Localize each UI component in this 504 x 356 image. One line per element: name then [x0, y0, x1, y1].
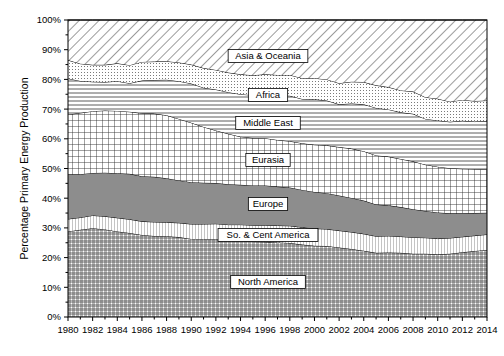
- x-tick-label: 1994: [230, 324, 251, 335]
- x-tick-label: 2012: [452, 324, 473, 335]
- x-tick-label: 2006: [378, 324, 399, 335]
- y-tick-label: 60%: [42, 133, 62, 144]
- series-label-middle-east: Middle East: [243, 117, 293, 128]
- series-label-so-cent-america: So. & Cent America: [227, 229, 311, 240]
- y-tick-label: 0%: [47, 311, 61, 322]
- y-axis-title-text: Percentage Primary Energy Production: [18, 77, 30, 259]
- y-tick-label: 90%: [42, 44, 62, 55]
- x-tick-label: 2014: [476, 324, 497, 335]
- y-tick-label: 10%: [42, 282, 62, 293]
- stacked-area-chart: 0%10%20%30%40%50%60%70%80%90%100% 198019…: [0, 0, 504, 356]
- series-label-asia-oceania: Asia & Oceania: [235, 50, 301, 61]
- x-tick-label: 2002: [329, 324, 350, 335]
- area-series-group: [68, 20, 487, 317]
- chart-container: 0%10%20%30%40%50%60%70%80%90%100% 198019…: [0, 0, 504, 356]
- series-label-europe: Europe: [253, 198, 284, 209]
- y-tick-label: 30%: [42, 222, 62, 233]
- x-tick-label: 1984: [107, 324, 128, 335]
- x-tick-label: 1980: [57, 324, 78, 335]
- y-tick-label: 20%: [42, 252, 62, 263]
- x-tick-label: 1988: [156, 324, 177, 335]
- y-axis-title: Percentage Primary Energy Production: [18, 77, 30, 259]
- x-axis-ticks: 1980198219841986198819901992199419961998…: [57, 317, 497, 335]
- y-tick-label: 80%: [42, 74, 62, 85]
- x-tick-label: 1998: [279, 324, 300, 335]
- series-label-eurasia: Eurasia: [252, 154, 285, 165]
- series-label-africa: Africa: [256, 89, 281, 100]
- series-label-north-america: North America: [238, 276, 299, 287]
- x-tick-label: 1986: [131, 324, 152, 335]
- y-tick-label: 50%: [42, 163, 62, 174]
- x-tick-label: 1982: [82, 324, 103, 335]
- x-tick-label: 1992: [205, 324, 226, 335]
- x-tick-label: 2008: [402, 324, 423, 335]
- x-tick-label: 2000: [304, 324, 325, 335]
- x-tick-label: 1996: [255, 324, 276, 335]
- y-axis-ticks: 0%10%20%30%40%50%60%70%80%90%100%: [37, 14, 68, 322]
- y-tick-label: 100%: [37, 14, 62, 25]
- x-tick-label: 2010: [427, 324, 448, 335]
- x-tick-label: 1990: [181, 324, 202, 335]
- y-tick-label: 70%: [42, 104, 62, 115]
- x-tick-label: 2004: [353, 324, 374, 335]
- y-tick-label: 40%: [42, 193, 62, 204]
